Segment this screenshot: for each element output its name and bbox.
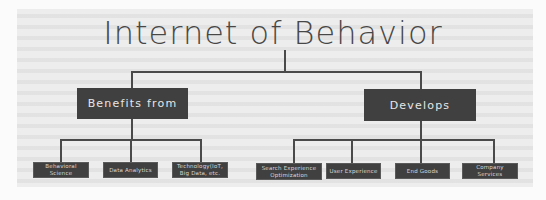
right-sub-stem-connector xyxy=(420,121,422,140)
branch-label: Develops xyxy=(390,99,451,112)
leaf-behavioral-science: Behavioral Science xyxy=(33,162,89,178)
leaf-drop-connector xyxy=(200,139,202,162)
title-stem-connector xyxy=(284,50,286,73)
leaf-label: Technology(IoT, Big Data, etc. xyxy=(175,163,225,177)
leaf-label: Data Analytics xyxy=(109,167,152,174)
leaf-label: User Experience xyxy=(330,168,378,175)
diagram-canvas: Internet of Behavior Benefits from Devel… xyxy=(0,0,546,200)
top-horizontal-connector xyxy=(131,71,422,73)
leaf-label: Behavioral Science xyxy=(36,163,86,177)
right-branch-drop-connector xyxy=(420,71,422,90)
leaf-drop-connector xyxy=(60,139,62,162)
branch-benefits-from: Benefits from xyxy=(77,88,188,119)
leaf-drop-connector xyxy=(351,139,353,163)
diagram-title: Internet of Behavior xyxy=(0,14,546,52)
leaf-label: End Goods xyxy=(407,168,438,175)
branch-label: Benefits from xyxy=(88,97,178,110)
branch-develops: Develops xyxy=(364,89,476,121)
leaf-end-goods: End Goods xyxy=(395,163,450,179)
left-sub-stem-connector xyxy=(131,119,133,140)
leaf-search-experience-optimization: Search Experience Optimization xyxy=(256,163,322,180)
leaf-data-analytics: Data Analytics xyxy=(103,162,158,178)
leaf-company-services: Company Services xyxy=(462,163,518,179)
left-branch-drop-connector xyxy=(131,71,133,89)
leaf-technology: Technology(IoT, Big Data, etc. xyxy=(172,162,228,178)
leaf-drop-connector xyxy=(130,139,132,162)
right-sub-horizontal-connector xyxy=(293,139,495,141)
leaf-user-experience: User Experience xyxy=(326,163,381,179)
leaf-label: Company Services xyxy=(465,164,515,178)
leaf-drop-connector xyxy=(493,139,495,163)
leaf-label: Search Experience Optimization xyxy=(259,165,319,179)
leaf-drop-connector xyxy=(293,139,295,163)
leaf-drop-connector xyxy=(420,139,422,163)
